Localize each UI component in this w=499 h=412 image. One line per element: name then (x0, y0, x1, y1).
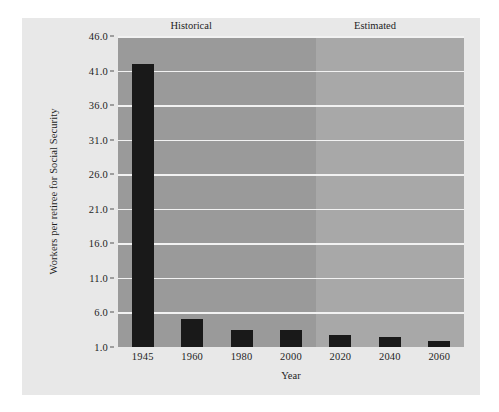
x-tick-label: 2020 (330, 351, 352, 362)
region-labels: Historical Estimated (118, 20, 464, 34)
y-tick-mark (110, 277, 114, 278)
y-tick-mark (110, 312, 114, 313)
estimated-region-label: Estimated (354, 20, 396, 31)
plot-area (118, 36, 464, 347)
y-tick-label: 16.0 (89, 238, 108, 249)
bar (428, 341, 450, 347)
x-axis-ticks: 1945196019802000202020402060 (118, 351, 464, 369)
y-tick-label: 46.0 (89, 31, 108, 42)
y-tick-mark (110, 208, 114, 209)
y-tick-label: 31.0 (89, 134, 108, 145)
y-tick-mark (110, 139, 114, 140)
bar (379, 337, 401, 347)
page-left-edge (0, 0, 22, 412)
y-tick-label: 41.0 (89, 65, 108, 76)
y-tick-mark (110, 243, 114, 244)
x-axis-title: Year (118, 370, 464, 381)
y-tick-mark (110, 347, 114, 348)
bar (329, 335, 351, 347)
y-tick-mark (110, 70, 114, 71)
y-tick-label: 11.0 (89, 272, 108, 283)
y-tick-mark (110, 36, 114, 37)
bar (181, 319, 203, 347)
bar-series (118, 36, 464, 347)
bar (280, 330, 302, 347)
x-tick-label: 1980 (231, 351, 253, 362)
x-tick-label: 2040 (379, 351, 401, 362)
y-tick-mark (110, 105, 114, 106)
y-axis-ticks: 1.06.011.016.021.026.031.036.041.046.0 (22, 36, 114, 347)
y-tick-label: 21.0 (89, 203, 108, 214)
x-tick-label: 2000 (280, 351, 302, 362)
bar (231, 330, 253, 347)
x-tick-label: 2060 (428, 351, 450, 362)
chart-figure: Historical Estimated Workers per retiree… (22, 18, 480, 395)
y-tick-mark (110, 174, 114, 175)
x-tick-label: 1945 (132, 351, 154, 362)
y-tick-label: 1.0 (94, 342, 108, 353)
historical-region-label: Historical (170, 20, 211, 31)
y-tick-label: 36.0 (89, 100, 108, 111)
x-tick-label: 1960 (181, 351, 203, 362)
y-tick-label: 6.0 (94, 307, 108, 318)
y-tick-label: 26.0 (89, 169, 108, 180)
bar (132, 64, 154, 347)
